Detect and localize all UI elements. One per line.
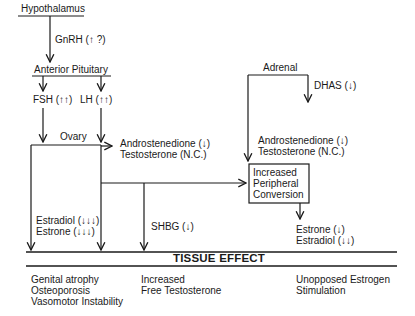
effect-stimulation: Stimulation: [296, 285, 345, 297]
effect-osteoporosis: Osteoporosis: [31, 285, 90, 297]
peripheral-estradiol: Estradiol (↓↓): [296, 235, 354, 247]
ovary-testosterone: Testosterone (N.C.): [120, 149, 207, 161]
conversion-line-2: Peripheral: [253, 178, 299, 190]
hormone-pathway-diagram: Hypothalamus GnRH (↑ ?) Anterior Pituita…: [0, 0, 415, 316]
effect-genital-atrophy: Genital atrophy: [31, 274, 99, 286]
ovary-estradiol: Estradiol (↓↓↓): [36, 215, 99, 227]
peripheral-estrone: Estrone (↓): [296, 224, 345, 236]
dhas-label: DHAS (↓): [314, 80, 356, 92]
effect-free-testosterone: Free Testosterone: [141, 285, 221, 297]
connector-lines: [0, 0, 415, 316]
tissue-effect-header: TISSUE EFFECT: [173, 253, 265, 265]
conversion-line-1: Increased: [253, 167, 297, 179]
shbg-label: SHBG (↓): [151, 221, 194, 233]
anterior-pituitary-label: Anterior Pituitary: [34, 64, 108, 76]
hypothalamus-label: Hypothalamus: [21, 3, 85, 15]
ovary-estrone: Estrone (↓↓↓): [36, 226, 95, 238]
gnrh-label: GnRH (↑ ?): [55, 34, 106, 46]
fsh-label: FSH (↑↑): [33, 94, 72, 106]
adrenal-testosterone: Testosterone (N.C.): [258, 146, 345, 158]
conversion-line-3: Conversion: [253, 189, 304, 201]
adrenal-androstenedione: Androstenedione (↓): [258, 135, 348, 147]
effect-vasomotor: Vasomotor Instability: [31, 296, 123, 308]
lh-label: LH (↑↑): [80, 94, 112, 106]
ovary-label: Ovary: [60, 131, 87, 143]
effect-increased: Increased: [141, 274, 185, 286]
effect-unopposed-estrogen: Unopposed Estrogen: [296, 274, 390, 286]
adrenal-label: Adrenal: [263, 62, 297, 74]
ovary-androstenedione: Androstenedione (↓): [120, 138, 210, 150]
